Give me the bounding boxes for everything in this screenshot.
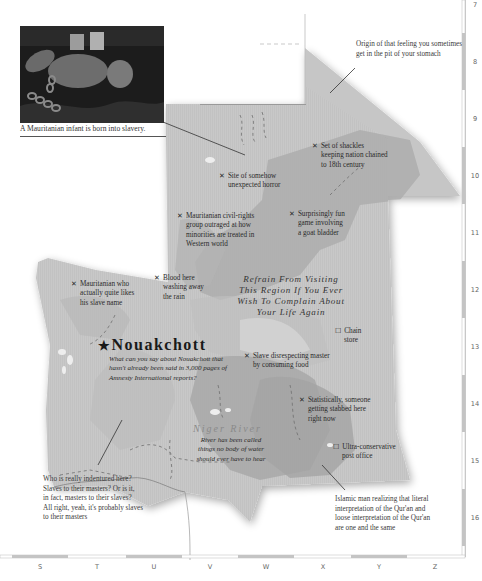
grid-col-x: X (313, 563, 333, 571)
capital-description: What can you say about Nouakchott that h… (109, 355, 227, 383)
region-title-line: Wish To Complain About (226, 296, 356, 307)
marker-blood: ✕Blood here washing away the rain (154, 274, 204, 302)
marker-label: getting stabbed here (299, 405, 371, 414)
star-icon: ★ (98, 338, 112, 353)
marker-label: minorities are treated in (177, 231, 254, 240)
callout-line: All right, yeah, it's probably slaves (43, 504, 143, 514)
river-note: River has been called things no body of … (186, 436, 276, 464)
marker-consuming-food: ✕Slave disrespecting master by consuming… (244, 352, 330, 371)
x-mark-icon: ✕ (219, 172, 225, 180)
marker-label: by consuming food (244, 361, 330, 370)
marker-label: Set of shackles (321, 142, 364, 150)
marker-label: Mauritanian civil-rights (186, 212, 254, 220)
x-mark-icon: ✕ (71, 280, 77, 288)
grid-col-t: T (87, 563, 107, 571)
marker-chain-store: ☐Chain store (335, 327, 361, 346)
grid-row-12: 12 (469, 286, 481, 294)
capital-label: ★Nouakchott (98, 336, 207, 354)
x-mark-icon: ✕ (177, 212, 183, 220)
region-title: Refrain From Visiting This Region If You… (226, 274, 356, 318)
marker-label: keeping nation chained (312, 151, 388, 160)
x-mark-icon: ✕ (289, 210, 295, 218)
marker-label: the rain (154, 293, 204, 302)
marker-shackles: ✕Set of shackles keeping nation chained … (312, 142, 388, 170)
marker-label: Slave disrespecting master (253, 352, 330, 360)
callout-stomach: Origin of that feeling you sometimes get… (356, 40, 466, 59)
marker-horror: ✕Site of somehow unexpected horror (219, 172, 281, 191)
grid-row-11: 11 (469, 229, 481, 237)
callout-indentured: Who is really indentured here? Slaves to… (43, 475, 143, 523)
border-line (200, 104, 306, 105)
callout-line: Slaves to their masters? Or is it, (43, 485, 143, 495)
marker-label: group outraged at how (177, 221, 254, 230)
callout-line: Who is really indentured here? (43, 475, 143, 485)
marker-label: post office (333, 452, 396, 461)
photo-image (20, 26, 164, 123)
square-icon: ☐ (333, 443, 339, 451)
marker-post-office: ☐Ultra-conservative post office (333, 443, 396, 462)
grid-row-9: 9 (469, 115, 481, 123)
marker-label: to 18th century (312, 161, 388, 170)
capital-name: Nouakchott (112, 336, 207, 353)
square-icon: ☐ (335, 327, 341, 335)
region-title-line: This Region If You Ever (226, 285, 356, 296)
x-mark-icon: ✕ (244, 352, 250, 360)
grid-row-13: 13 (469, 343, 481, 351)
grid-col-u: U (144, 563, 164, 571)
marker-label: Surprisingly fun (298, 210, 345, 218)
infant-photo (20, 26, 164, 123)
grid-row-16: 16 (469, 514, 481, 522)
grid-row-7: 7 (469, 1, 481, 9)
grid-col-y: Y (369, 563, 389, 571)
marker-label: game involving (289, 219, 345, 228)
callout-line: to their masters (43, 513, 143, 523)
river-note-line: things no body of water (186, 445, 276, 454)
callout-line: loose interpretation of the Qur'an (335, 514, 430, 524)
callout-line: interpretation of the Qur'an and (335, 505, 430, 515)
capital-description-line: hasn't already been said in 3,000 pages … (109, 364, 227, 373)
river-note-line: River has been called (186, 436, 276, 445)
marker-slave-name: ✕Mauritanian who actually quite likes hi… (71, 280, 134, 308)
region-title-line: Your Life Again (226, 307, 356, 318)
grid-row-10: 10 (469, 172, 481, 180)
grid-col-s: S (30, 563, 50, 571)
marker-label: actually quite likes (71, 289, 134, 298)
photo-caption: A Mauritanian infant is born into slaver… (20, 124, 166, 137)
grid-col-v: V (200, 563, 220, 571)
marker-label: store (335, 336, 361, 345)
grid-row-14: 14 (469, 400, 481, 408)
river-line (185, 492, 190, 560)
x-mark-icon: ✕ (312, 142, 318, 150)
marker-stabbed: ✕Statistically, someone getting stabbed … (299, 396, 371, 424)
callout-quran: Islamic man realizing that literal inter… (335, 495, 430, 533)
x-mark-icon: ✕ (299, 396, 305, 404)
marker-label: a goat bladder (289, 229, 345, 238)
marker-label: unexpected horror (219, 181, 281, 190)
grid-col-w: W (256, 563, 276, 571)
grid-col-z: Z (425, 563, 445, 571)
callout-line: are one and the same (335, 524, 430, 534)
river-note-line: should ever have to hear (186, 455, 276, 464)
marker-label: Chain (344, 327, 361, 335)
marker-label: Ultra-conservative (342, 443, 395, 451)
marker-label: his slave name (71, 299, 134, 308)
x-mark-icon: ✕ (154, 274, 160, 282)
marker-label: Blood here (163, 274, 195, 282)
capital-description-line: Amnesty International reports? (109, 374, 227, 383)
callout-line: Islamic man realizing that literal (335, 495, 430, 505)
region-title-line: Refrain From Visiting (226, 274, 356, 285)
marker-label: Site of somehow (228, 172, 276, 180)
river-name: Niger River (193, 423, 262, 434)
capital-description-line: What can you say about Nouakchott that (109, 355, 227, 364)
marker-label: right now (299, 415, 371, 424)
marker-civil-rights: ✕Mauritanian civil-rights group outraged… (177, 212, 254, 250)
grid-row-8: 8 (469, 58, 481, 66)
marker-label: Statistically, someone (308, 396, 371, 404)
marker-goat-bladder: ✕Surprisingly fun game involving a goat … (289, 210, 345, 238)
grid-row-15: 15 (469, 457, 481, 465)
marker-label: Western world (177, 240, 254, 249)
callout-line: in fact, masters to their slaves? (43, 494, 143, 504)
marker-label: washing away (154, 283, 204, 292)
marker-label: Mauritanian who (80, 280, 129, 288)
